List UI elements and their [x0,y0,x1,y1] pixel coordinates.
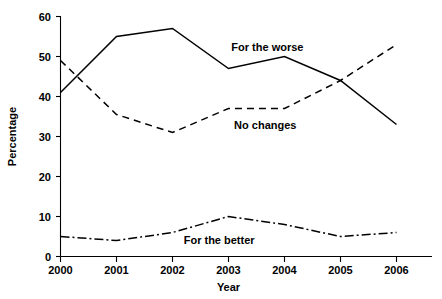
chart-canvas: 0 10 20 30 40 50 60 2000 2001 2002 2003 … [0,0,442,299]
series-line-for-the-worse [61,29,397,125]
series-line-no-changes [61,45,397,133]
annotation-for-the-better: For the better [184,234,256,246]
x-tick-label-2005: 2005 [328,264,352,276]
y-tick-label-50: 50 [39,51,51,63]
x-tick-labels: 2000 2001 2002 2003 2004 2005 2006 [48,264,408,276]
x-tick-label-2001: 2001 [104,264,128,276]
y-tick-labels: 0 10 20 30 40 50 60 [39,11,51,263]
x-tick-label-2003: 2003 [216,264,240,276]
annotation-no-changes: No changes [234,119,296,131]
y-tick-label-20: 20 [39,171,51,183]
x-axis-title: Year [217,281,241,293]
y-tick-label-60: 60 [39,11,51,23]
x-tick-label-2006: 2006 [384,264,408,276]
x-tick-label-2000: 2000 [48,264,72,276]
annotation-for-the-worse: For the worse [231,41,303,53]
x-tick-label-2002: 2002 [160,264,184,276]
y-axis-title: Percentage [6,107,18,166]
y-tick-label-0: 0 [45,251,51,263]
y-tick-marks [56,17,61,257]
y-tick-label-30: 30 [39,131,51,143]
y-tick-label-10: 10 [39,211,51,223]
y-tick-label-40: 40 [39,91,51,103]
line-chart: 0 10 20 30 40 50 60 2000 2001 2002 2003 … [0,0,442,299]
x-tick-label-2004: 2004 [272,264,297,276]
x-tick-marks [61,257,397,263]
